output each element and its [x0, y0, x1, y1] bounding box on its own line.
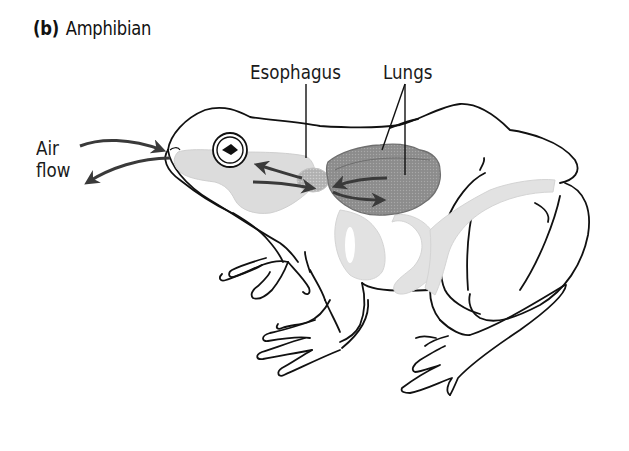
eye — [213, 133, 247, 167]
nostril — [170, 148, 180, 150]
label-lungs: Lungs — [383, 62, 433, 82]
label-esophagus: Esophagus — [250, 62, 341, 82]
lungs-leader-line-1 — [382, 84, 405, 150]
tract-loop-hole — [399, 240, 411, 250]
amphibian-respiration-figure: (b)Amphibian — [0, 0, 629, 451]
tract-gap — [345, 227, 355, 263]
label-air-flow-line2: flow — [36, 160, 70, 180]
esophagus-region — [297, 168, 329, 192]
air-out-arrow — [88, 158, 170, 182]
air-in-arrow — [80, 140, 162, 150]
lungs-shape — [327, 144, 441, 215]
label-air-flow-line1: Air — [36, 138, 59, 158]
